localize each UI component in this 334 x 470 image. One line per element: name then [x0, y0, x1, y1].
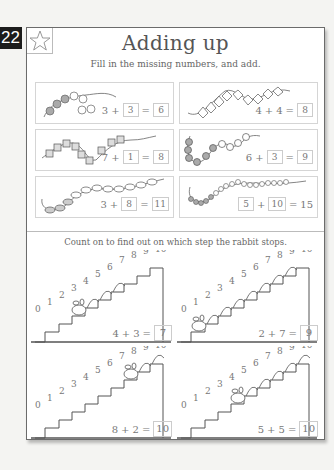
svg-text:9: 9	[143, 250, 149, 256]
addend-a: 7	[102, 152, 108, 163]
section-divider	[27, 231, 324, 232]
answer-box[interactable]: 10	[299, 421, 318, 437]
svg-text:0: 0	[181, 304, 187, 314]
addend-a: 3	[100, 199, 106, 210]
equals-sign: =	[142, 424, 150, 435]
plus-sign: +	[257, 199, 265, 210]
svg-text:8: 8	[131, 346, 137, 356]
svg-text:4: 4	[229, 276, 235, 286]
answer-box[interactable]: 10	[153, 421, 172, 437]
svg-text:10: 10	[155, 346, 167, 350]
plus-sign: +	[122, 328, 130, 339]
svg-text:1: 1	[193, 297, 199, 307]
svg-text:6: 6	[107, 358, 113, 368]
rabbit-icon	[124, 363, 138, 379]
svg-text:9: 9	[143, 346, 149, 352]
plus-sign: +	[121, 424, 129, 435]
hop-arrows	[87, 283, 125, 308]
addend-a: 3	[102, 105, 108, 116]
start-value: 4	[112, 328, 118, 339]
addend-b: 4	[276, 105, 282, 116]
equation: 5 + 5 = 10	[258, 421, 318, 437]
stair-exercise-3: 0 1 2 3 4 5 6 7 8 9 10 8 + 2 =	[31, 346, 178, 442]
svg-text:8: 8	[131, 250, 137, 260]
answer-box-sum[interactable]: 11	[152, 197, 169, 211]
start-value: 5	[258, 424, 264, 435]
start-value: 8	[112, 424, 118, 435]
equals-sign: =	[289, 199, 297, 210]
svg-text:8: 8	[277, 346, 283, 356]
start-value: 2	[258, 328, 264, 339]
svg-text:3: 3	[217, 379, 223, 389]
stair-exercise-4: 0 1 2 3 4 5 6 7 8 9 10 5	[177, 346, 324, 442]
svg-text:3: 3	[71, 283, 77, 293]
rabbit-icon	[192, 315, 206, 331]
equals-sign: =	[140, 199, 148, 210]
answer-box-addend[interactable]: 1	[123, 150, 139, 164]
answer-box-addend-b[interactable]: 10	[268, 197, 285, 211]
equation: 7 + 1 = 8	[102, 150, 169, 164]
svg-text:7: 7	[119, 255, 125, 265]
equals-sign: =	[143, 328, 151, 339]
equals-sign: =	[288, 424, 296, 435]
answer-box-sum[interactable]: 8	[153, 150, 169, 164]
page-number: 22	[0, 27, 22, 49]
svg-text:2: 2	[205, 386, 211, 396]
answer-box[interactable]: 9	[300, 325, 318, 341]
svg-text:9: 9	[289, 346, 295, 352]
page-subtitle: Fill in the missing numbers, and add.	[27, 59, 324, 69]
bead-exercise-2: 4 + 4 = 8	[179, 82, 318, 124]
answer-box-sum[interactable]: 9	[297, 150, 313, 164]
plus-sign: +	[267, 424, 275, 435]
svg-text:9: 9	[289, 250, 295, 256]
bead-exercise-1: 3 + 3 = 6	[35, 82, 174, 124]
svg-text:10: 10	[301, 250, 313, 254]
addend-a: 4	[255, 105, 261, 116]
answer-box-addend-a[interactable]: 5	[238, 197, 254, 211]
plus-sign: +	[111, 152, 119, 163]
stairs-instruction: Count on to find out on which step the r…	[27, 237, 324, 247]
svg-text:1: 1	[47, 297, 53, 307]
equals-sign: =	[142, 152, 150, 163]
bead-exercise-6: 5 + 10 = 15	[179, 176, 318, 218]
addend-a: 6	[246, 152, 252, 163]
answer-box-addend[interactable]: 3	[267, 150, 283, 164]
sum-value: 15	[300, 199, 313, 210]
svg-text:2: 2	[59, 386, 65, 396]
svg-text:5: 5	[241, 365, 247, 375]
svg-text:2: 2	[59, 290, 65, 300]
svg-text:4: 4	[83, 372, 89, 382]
equation: 5 + 10 = 15	[238, 197, 313, 211]
bead-exercise-4: 6 + 3 = 9	[179, 129, 318, 171]
svg-text:10: 10	[301, 346, 313, 350]
answer-box-addend[interactable]: 3	[123, 103, 139, 117]
svg-text:5: 5	[241, 269, 247, 279]
svg-text:0: 0	[35, 400, 41, 410]
equation: 3 + 3 = 6	[102, 103, 169, 117]
answer-box-addend[interactable]: 8	[121, 197, 137, 211]
plus-sign: +	[265, 105, 273, 116]
answer-box-sum[interactable]: 8	[297, 103, 313, 117]
bead-exercise-5: 3 + 8 = 11	[35, 176, 174, 218]
equation: 2 + 7 = 9	[258, 325, 318, 341]
bead-exercise-3: 7 + 1 = 8	[35, 129, 174, 171]
svg-text:8: 8	[277, 250, 283, 260]
svg-text:7: 7	[265, 351, 271, 361]
svg-text:6: 6	[107, 262, 113, 272]
plus-sign: +	[111, 105, 119, 116]
page-title: Adding up	[27, 31, 324, 55]
svg-text:7: 7	[265, 255, 271, 265]
answer-box-sum[interactable]: 6	[153, 103, 169, 117]
equals-sign: =	[286, 152, 294, 163]
svg-text:5: 5	[95, 269, 101, 279]
plus-sign: +	[255, 152, 263, 163]
svg-text:2: 2	[205, 290, 211, 300]
answer-box[interactable]: 7	[154, 325, 172, 341]
svg-text:6: 6	[253, 358, 259, 368]
svg-text:7: 7	[119, 351, 125, 361]
svg-text:3: 3	[71, 379, 77, 389]
add-value: 5	[279, 424, 285, 435]
equation: 3 + 8 = 11	[100, 197, 169, 211]
svg-text:5: 5	[95, 365, 101, 375]
plus-sign: +	[268, 328, 276, 339]
